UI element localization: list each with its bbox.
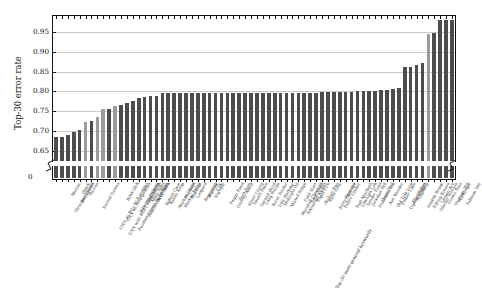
bar (356, 91, 360, 161)
bar-stub (267, 166, 271, 178)
x-tick-mark-top (97, 16, 98, 19)
bar (249, 93, 253, 161)
x-tick-mark-top (334, 16, 335, 19)
bar-stub (297, 166, 301, 178)
x-tick-mark-top (316, 16, 317, 19)
x-tick-mark-top (328, 16, 329, 19)
bar (421, 63, 425, 161)
x-tick-mark-top (109, 16, 110, 19)
bar-stub (231, 166, 235, 178)
bar (326, 92, 330, 161)
bar-stub (320, 166, 324, 178)
bar (220, 93, 224, 161)
bar (261, 93, 265, 161)
bar-stub (432, 166, 436, 178)
bar (332, 92, 336, 161)
bar (226, 93, 230, 161)
bar-stub (261, 166, 265, 178)
x-tick-mark-top (68, 16, 69, 19)
bar (391, 89, 395, 161)
bar (60, 137, 64, 161)
x-tick-mark-top (245, 16, 246, 19)
bar-stub (373, 166, 377, 178)
bar-stub (255, 166, 259, 178)
x-tick-mark-top (103, 16, 104, 19)
x-tick-mark-top (251, 16, 252, 19)
x-tick-label: Sacred Games (101, 182, 120, 210)
bar-stub (143, 166, 147, 178)
bar (101, 109, 105, 161)
bar-stub (302, 166, 306, 178)
bar (291, 93, 295, 161)
bar-stub (350, 166, 354, 178)
bar-stub (184, 166, 188, 178)
bar (302, 93, 306, 161)
x-tick-mark-top (80, 16, 81, 19)
bar (178, 93, 182, 161)
bar (214, 93, 218, 161)
bar (308, 93, 312, 161)
bar-stub (243, 166, 247, 178)
y-tick-label: 0.95 (33, 26, 49, 35)
bar (320, 92, 324, 161)
bar-stub (66, 166, 70, 178)
bar-stub (421, 166, 425, 178)
bar-stub (220, 166, 224, 178)
axis-break-mark (448, 158, 462, 174)
bar-stub (367, 166, 371, 178)
bar-stub (72, 166, 76, 178)
bar (373, 91, 377, 161)
bar-stub (137, 166, 141, 178)
bar (243, 93, 247, 161)
bar (432, 33, 436, 161)
x-tick-label: Ridgeway (416, 182, 430, 202)
bar-stub (101, 166, 105, 178)
axis-break-stub-band (52, 166, 456, 180)
x-tick-mark-top (369, 16, 370, 19)
axis-break-mark (46, 158, 60, 174)
bar (78, 130, 82, 161)
bar-stub (172, 166, 176, 178)
x-tick-mark-top (340, 16, 341, 19)
x-tick-mark-top (269, 16, 270, 19)
x-tick-mark-top (121, 16, 122, 19)
bar (125, 103, 129, 161)
x-tick-mark-top (156, 16, 157, 19)
y-tick-mark (53, 32, 56, 33)
x-tick-mark-top (405, 16, 406, 19)
plot-inner (53, 16, 455, 162)
bar-stub (397, 166, 401, 178)
bar-stub (202, 166, 206, 178)
y-tick-label: 0.75 (33, 106, 49, 115)
x-tick-mark-top (216, 16, 217, 19)
bar-stub (415, 166, 419, 178)
bar-stub (84, 166, 88, 178)
bar (166, 93, 170, 161)
bar (350, 92, 354, 161)
bar (385, 90, 389, 161)
x-tick-mark-top (281, 16, 282, 19)
x-tick-mark-top (180, 16, 181, 19)
x-tick-mark-top (346, 16, 347, 19)
bar (190, 93, 194, 161)
x-tick-mark-top (151, 16, 152, 19)
x-tick-mark-top (263, 16, 264, 19)
x-tick-mark-top (399, 16, 400, 19)
bar (155, 96, 159, 161)
bar (338, 92, 342, 161)
x-tick-mark-top (322, 16, 323, 19)
bar (438, 20, 442, 161)
x-tick-mark-top (227, 16, 228, 19)
bar (231, 93, 235, 161)
bar (409, 67, 413, 161)
stub-inner (53, 166, 455, 179)
bar-stub (273, 166, 277, 178)
grid-line (53, 72, 455, 73)
x-tick-mark-top (287, 16, 288, 19)
x-tick-mark-top (168, 16, 169, 19)
bar (143, 97, 147, 161)
bar (202, 93, 206, 161)
y-tick-mark (53, 52, 56, 53)
bar (255, 93, 259, 161)
